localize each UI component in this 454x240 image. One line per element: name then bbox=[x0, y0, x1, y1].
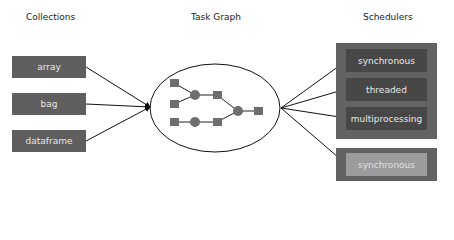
scheduler-multiprocessing: multiprocessing bbox=[346, 107, 427, 130]
task-node-square bbox=[170, 100, 179, 108]
arrow-dataframe-to-graph bbox=[86, 107, 150, 141]
task-node-square bbox=[213, 91, 222, 99]
task-node-square bbox=[254, 107, 263, 115]
data-node-circle bbox=[233, 106, 243, 116]
scheduler-threaded: threaded bbox=[346, 78, 427, 101]
scheduler-synchronous: synchronous bbox=[346, 49, 427, 72]
data-node-circle bbox=[190, 117, 200, 127]
data-node-circle bbox=[190, 90, 200, 100]
task-node-square bbox=[170, 79, 179, 87]
collection-array: array bbox=[12, 56, 86, 78]
arrow-array-to-graph bbox=[86, 67, 150, 107]
collection-bag: bag bbox=[12, 93, 86, 115]
task-node-square bbox=[170, 118, 179, 126]
scheduler-synchronous-secondary: synchronous bbox=[346, 153, 427, 176]
arrow-bag-to-graph bbox=[86, 104, 150, 107]
collection-dataframe: dataframe bbox=[12, 130, 86, 152]
task-node-square bbox=[213, 118, 222, 126]
